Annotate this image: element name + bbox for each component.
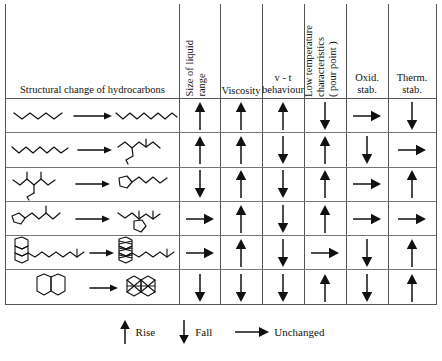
table-row [6,271,436,305]
structure-diagram-row-3 [6,167,179,201]
arrow-fall-icon [359,135,375,165]
cell-viscosity [220,202,262,235]
structure-cell [6,271,179,305]
cell-vt-behaviour [262,202,304,235]
table-row [6,202,436,236]
arrow-fall-icon [359,238,375,268]
arrow-fall-icon [404,101,420,131]
table-row [6,99,436,133]
arrow-rise-icon [275,101,291,131]
arrow-rise-icon [192,135,208,165]
cell-therm-stab [388,133,436,166]
legend-item-fall: Fall [177,319,212,345]
legend-item-rise: Rise [118,319,156,345]
column-header-low-temperature-label: Low temperaturecharacteristics( pour poi… [303,25,347,97]
arrow-fall-icon [192,273,208,303]
cell-low-temperature [304,99,346,132]
column-header-vt-behaviour: v - tbehaviour [262,4,304,99]
column-header-oxid-stab: Oxid.stab. [346,4,388,99]
structure-cell [6,168,179,201]
arrow-fall-icon [177,319,191,345]
arrow-rise-icon [233,169,249,199]
arrow-fall-icon [317,101,333,131]
cell-vt-behaviour [262,168,304,201]
cell-viscosity [220,99,262,132]
arrow-rise-icon [233,135,249,165]
table-row [6,236,436,270]
arrow-fall-icon [275,135,291,165]
arrow-unchanged-icon [352,177,382,191]
legend-label-fall: Fall [195,326,212,338]
cell-therm-stab [388,168,436,201]
arrow-rise-icon [317,204,333,234]
table-body [6,99,436,305]
arrow-unchanged-icon [234,325,270,339]
structure-diagram-row-2 [6,133,179,167]
structure-diagram-row-1 [6,99,179,133]
cell-liquid-range [179,202,220,235]
cell-therm-stab [388,271,436,305]
arrow-unchanged-icon [310,246,340,260]
arrow-unchanged-icon [397,143,427,157]
arrow-rise-icon [404,238,420,268]
cell-vt-behaviour [262,133,304,166]
cell-low-temperature [304,202,346,235]
arrow-rise-icon [233,101,249,131]
column-header-therm-stab-label: Therm.stab. [397,72,428,97]
arrow-unchanged-icon [352,212,382,226]
arrow-rise-icon [118,319,132,345]
cell-vt-behaviour [262,99,304,132]
cell-liquid-range [179,236,220,269]
cell-oxid-stab [346,99,388,132]
cell-liquid-range [179,271,220,305]
column-header-structural: Structural change of hydrocarbons [6,4,179,99]
structure-cell [6,133,179,166]
cell-viscosity [220,133,262,166]
legend-label-rise: Rise [136,326,156,338]
cell-low-temperature [304,133,346,166]
column-header-oxid-stab-label: Oxid.stab. [355,72,379,97]
cell-therm-stab [388,236,436,269]
properties-table: Structural change of hydrocarbons Size o… [5,4,437,305]
cell-oxid-stab [346,202,388,235]
legend-label-unchanged: Unchanged [274,326,324,338]
arrow-fall-icon [275,273,291,303]
arrow-fall-icon [275,238,291,268]
arrow-fall-icon [233,273,249,303]
cell-viscosity [220,236,262,269]
cell-liquid-range [179,99,220,132]
cell-viscosity [220,168,262,201]
cell-therm-stab [388,202,436,235]
arrow-rise-icon [404,273,420,303]
arrow-unchanged-icon [185,212,215,226]
cell-oxid-stab [346,236,388,269]
structure-diagram-row-6 [6,271,179,305]
cell-vt-behaviour [262,271,304,305]
cell-low-temperature [304,271,346,305]
legend: Rise Fall Unchanged [0,312,442,352]
table-row [6,133,436,167]
table-row [6,168,436,202]
legend-item-unchanged: Unchanged [234,325,324,339]
arrow-rise-icon [317,169,333,199]
structure-cell [6,202,179,235]
column-header-low-temperature: Low temperaturecharacteristics( pour poi… [304,4,346,99]
arrow-rise-icon [317,273,333,303]
arrow-rise-icon [404,169,420,199]
column-header-therm-stab: Therm.stab. [388,4,436,99]
cell-oxid-stab [346,168,388,201]
cell-therm-stab [388,99,436,132]
column-header-viscosity: Viscosity [220,4,262,99]
structure-cell [6,99,179,132]
column-header-structural-label: Structural change of hydrocarbons [20,84,165,96]
arrow-fall-icon [359,273,375,303]
arrow-unchanged-icon [185,246,215,260]
arrow-rise-icon [233,204,249,234]
cell-oxid-stab [346,271,388,305]
column-header-vt-behaviour-label: v - tbehaviour [262,72,304,97]
structure-diagram-row-4 [6,202,179,236]
cell-low-temperature [304,168,346,201]
column-header-liquid-range-label: Size of liquidrange [184,40,214,97]
cell-low-temperature [304,236,346,269]
cell-oxid-stab [346,133,388,166]
